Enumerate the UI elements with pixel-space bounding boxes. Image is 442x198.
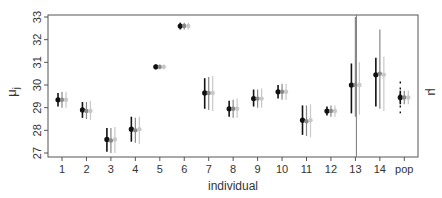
- y-axis-label: μj: [4, 87, 21, 97]
- x-tick-label: 3: [108, 163, 114, 175]
- data-point: [64, 98, 68, 102]
- data-point: [207, 91, 211, 95]
- data-point: [255, 96, 259, 100]
- data-point: [406, 95, 410, 99]
- data-point: [186, 24, 190, 28]
- x-tick-label: 9: [255, 163, 261, 175]
- data-point: [353, 83, 357, 87]
- data-point: [162, 65, 166, 69]
- x-tick-label: 13: [349, 163, 361, 175]
- x-tick-label: 7: [206, 163, 212, 175]
- data-point: [259, 96, 263, 100]
- data-point: [113, 137, 117, 141]
- data-point: [357, 83, 361, 87]
- data-point: [84, 109, 88, 113]
- x-tick-label: 8: [230, 163, 236, 175]
- data-point: [88, 109, 92, 113]
- data-point: [373, 72, 378, 77]
- y-tick-label: 28: [31, 124, 43, 136]
- data-point: [137, 127, 141, 131]
- x-tick-label: 10: [276, 163, 288, 175]
- x-tick-label: 4: [132, 163, 138, 175]
- y-tick-label: 30: [31, 79, 43, 91]
- y-tick-label: 33: [31, 11, 43, 23]
- data-point: [300, 118, 305, 123]
- data-point: [308, 118, 312, 122]
- data-point: [304, 119, 308, 123]
- x-tick-label: 5: [157, 163, 163, 175]
- data-point: [235, 107, 239, 111]
- data-point: [109, 138, 113, 142]
- x-tick-label: 2: [83, 163, 89, 175]
- x-axis: 1234567891011121314pop: [59, 157, 414, 175]
- data-point: [60, 98, 64, 102]
- y-tick-label: 27: [31, 147, 43, 159]
- plot-frame: [48, 15, 418, 157]
- x-tick-label: 12: [325, 163, 337, 175]
- x-axis-label: individual: [208, 179, 258, 193]
- data-point: [211, 91, 215, 95]
- data-point: [378, 71, 382, 75]
- x-tick-label: 6: [181, 163, 187, 175]
- chart: 27282930313233 1234567891011121314pop in…: [0, 0, 442, 198]
- data-series: [55, 17, 410, 153]
- data-point: [133, 128, 137, 132]
- data-point: [182, 24, 186, 28]
- data-point: [333, 109, 337, 113]
- x-tick-label: 1: [59, 163, 65, 175]
- x-tick-label: pop: [395, 163, 413, 175]
- x-tick-label: 11: [301, 163, 312, 175]
- data-point: [104, 137, 109, 142]
- right-axis-label: μ: [425, 88, 440, 96]
- y-axis: 27282930313233: [31, 11, 48, 159]
- y-tick-label: 31: [31, 56, 43, 68]
- x-tick-label: 14: [374, 163, 386, 175]
- data-point: [129, 127, 134, 132]
- data-point: [402, 95, 406, 99]
- data-point: [280, 90, 284, 94]
- data-point: [231, 107, 235, 111]
- data-point: [158, 65, 162, 69]
- y-tick-label: 29: [31, 102, 43, 114]
- y-tick-label: 32: [31, 34, 43, 46]
- data-point: [329, 109, 333, 113]
- data-point: [80, 107, 85, 112]
- data-point: [382, 73, 386, 77]
- data-point: [284, 90, 288, 94]
